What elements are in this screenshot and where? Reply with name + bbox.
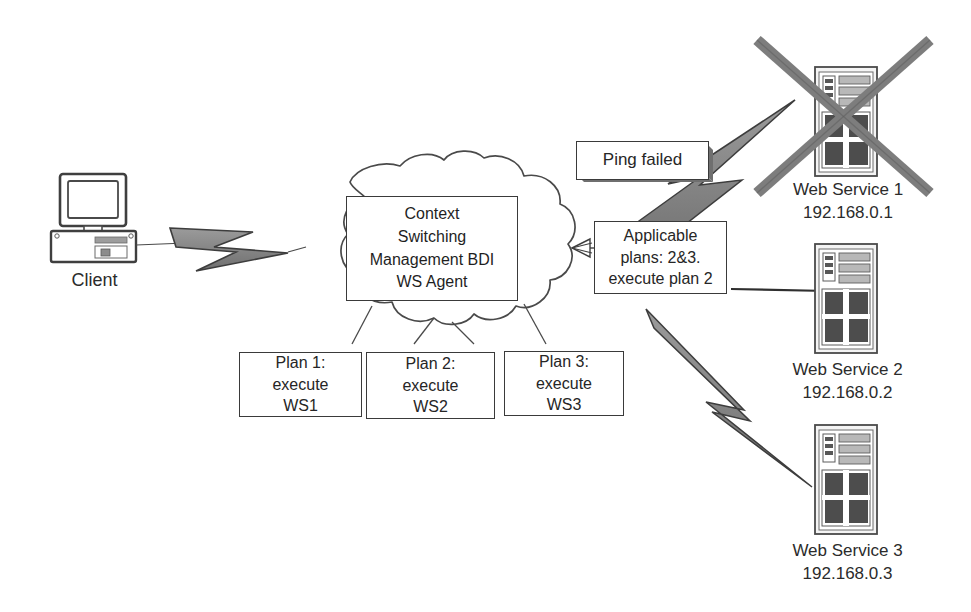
web-service-1-caption: Web Service 1 192.168.0.1 [768, 179, 928, 225]
lightning-bolt-icon-client-to-cloud [136, 228, 306, 271]
plan-box-3[interactable]: Plan 3: execute WS3 [504, 351, 624, 416]
desktop-computer-icon [51, 174, 136, 262]
applicable-plans-box[interactable]: Applicable plans: 2&3. execute plan 2 [594, 221, 727, 294]
web-service-2-caption: Web Service 2 192.168.0.2 [766, 359, 929, 405]
plan-box-2[interactable]: Plan 2: execute WS2 [366, 352, 495, 419]
plain-line-to-ws2 [731, 289, 828, 291]
client-caption: Client [42, 268, 147, 292]
web-service-3-caption: Web Service 3 192.168.0.3 [766, 540, 929, 586]
server-tower-icon-web-service-2 [815, 244, 877, 353]
server-tower-icon-web-service-3 [815, 425, 877, 534]
diagram-vector-layer [0, 0, 971, 612]
ping-failed-box[interactable]: Ping failed [576, 141, 709, 180]
diagram-canvas: Client Context Switching Management BDI … [0, 0, 971, 612]
plan-box-1[interactable]: Plan 1: execute WS1 [239, 352, 362, 417]
arrow-line-cloud-to-applicable-plans [572, 239, 595, 257]
agent-context-box: Context Switching Management BDI WS Agen… [346, 196, 518, 301]
